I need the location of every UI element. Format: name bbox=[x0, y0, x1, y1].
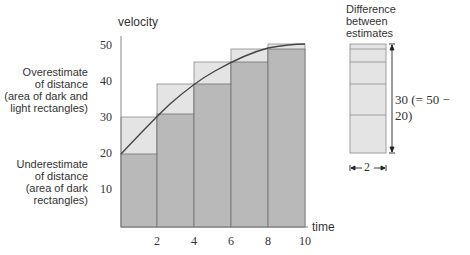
underestimate-line-2: of distance bbox=[0, 170, 88, 182]
y-tick-20: 20 bbox=[100, 146, 112, 161]
y-axis-label: velocity bbox=[118, 16, 158, 28]
underestimate-line-4: rectangles) bbox=[0, 194, 88, 206]
y-tick-40: 40 bbox=[100, 74, 112, 89]
difference-line-1: Difference bbox=[346, 3, 396, 15]
overestimate-line-2: of distance bbox=[0, 78, 88, 90]
x-tick-6: 6 bbox=[228, 234, 234, 249]
overestimate-annotation: Overestimate of distance (area of dark a… bbox=[0, 66, 88, 114]
x-tick-10: 10 bbox=[299, 234, 311, 249]
overestimate-line-3: (area of dark and bbox=[0, 90, 88, 102]
difference-value: 30 (= 50 − 20) bbox=[394, 92, 470, 124]
chart-canvas bbox=[0, 0, 470, 255]
x-tick-2: 2 bbox=[154, 234, 160, 249]
difference-line-2: between bbox=[346, 15, 396, 27]
underestimate-line-3: (area of dark bbox=[0, 182, 88, 194]
y-tick-30: 30 bbox=[100, 110, 112, 125]
overestimate-line-1: Overestimate bbox=[0, 66, 88, 78]
y-tick-10: 10 bbox=[100, 182, 112, 197]
underestimate-annotation: Underestimate of distance (area of dark … bbox=[0, 158, 88, 206]
x-axis-label: time bbox=[312, 221, 335, 233]
overestimate-line-4: light rectangles) bbox=[0, 102, 88, 114]
difference-annotation: Difference between estimates bbox=[346, 3, 396, 39]
difference-stack bbox=[350, 44, 386, 153]
y-tick-50: 50 bbox=[100, 38, 112, 53]
x-tick-8: 8 bbox=[265, 234, 271, 249]
underestimate-line-1: Underestimate bbox=[0, 158, 88, 170]
difference-line-3: estimates bbox=[346, 27, 396, 39]
width-label: 2 bbox=[364, 160, 370, 175]
x-tick-4: 4 bbox=[191, 234, 197, 249]
